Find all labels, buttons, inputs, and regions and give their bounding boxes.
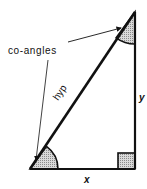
hypotenuse-label: hyp [51, 82, 69, 102]
hypotenuse-line [30, 12, 135, 169]
triangle-diagram: co-angles hyp y x [0, 0, 147, 189]
co-angles-label: co-angles [8, 45, 57, 56]
right-angle-marker [118, 153, 135, 169]
leader-arrow-top [68, 28, 121, 42]
horizontal-side-label: x [83, 174, 90, 185]
vertical-side-label: y [138, 92, 145, 103]
